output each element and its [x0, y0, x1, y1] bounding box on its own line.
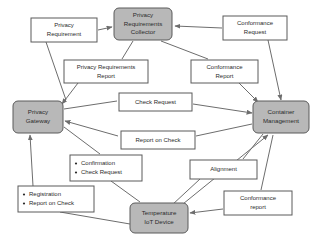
- bullet-icon: [23, 202, 25, 204]
- node-label-line: Temperature: [142, 209, 177, 216]
- label-text-line: Report: [215, 73, 233, 79]
- node-temperature-iot-device[interactable]: TemperatureIoT Device: [130, 203, 188, 233]
- edge-container-to-conformance-report-bottom: [261, 135, 273, 190]
- node-privacy-gateway[interactable]: PrivacyGateway: [13, 101, 63, 133]
- label-text-line: Privacy Requirements: [77, 64, 136, 70]
- node-privacy-requirements-collector[interactable]: PrivacyRequirementsCollector: [114, 8, 172, 40]
- edge-container-to-report-on-check: [196, 124, 252, 136]
- edge-collector-to-conformance-report: [161, 41, 208, 59]
- edge-conformance-request-to-container: [268, 40, 281, 100]
- label-text-line: Check Request: [81, 169, 122, 175]
- bullet-icon: [75, 162, 77, 164]
- label-text-line: Confirmation: [81, 160, 115, 166]
- label-text-line: Report: [97, 73, 115, 79]
- edge-conformance-report-to-container: [239, 83, 258, 102]
- label-text-line: Conformance: [237, 20, 274, 26]
- label-box-alignment: Alignment: [190, 160, 257, 179]
- edge-gateway-to-check-request: [64, 101, 117, 109]
- edge-privacy-requirement-to-collector: [98, 27, 112, 30]
- node-label-line: Management: [263, 117, 299, 124]
- node-label-line: Privacy: [133, 11, 154, 18]
- bullet-icon: [23, 193, 25, 195]
- node-label-line: Collector: [131, 28, 155, 35]
- edge-registration-to-gateway: [30, 135, 33, 186]
- label-box-privacy-requirement: PrivacyRequirement: [31, 18, 97, 42]
- label-text-line: Alignment: [210, 166, 237, 172]
- diagram-canvas: PrivacyRequirementConformanceRequestPriv…: [0, 0, 323, 246]
- edge-device-to-gateway-registration: [60, 212, 130, 224]
- edge-collector-to-requirements-report: [122, 41, 133, 59]
- node-label-line: Container: [268, 108, 295, 115]
- edge-gateway-to-confirmation: [64, 127, 100, 154]
- node-container-management[interactable]: ContainerManagement: [253, 101, 309, 133]
- edge-conformance-report-bottom-to-device: [190, 209, 223, 213]
- label-box-conformance-report-top: ConformanceReport: [191, 60, 258, 83]
- label-box-frame: [70, 155, 142, 181]
- edge-container-to-alignment: [243, 134, 263, 159]
- label-text-line: report: [250, 204, 266, 210]
- node-label-line: Requirements: [124, 20, 163, 27]
- node-label-line: IoT Device: [144, 218, 174, 225]
- bullet-icon: [75, 171, 77, 173]
- label-text-line: Request: [244, 29, 267, 35]
- label-text-line: Requirement: [47, 31, 82, 37]
- label-box-registration-report-on-check: RegistrationReport on Check: [18, 186, 94, 212]
- node-label-line: Gateway: [26, 117, 51, 124]
- label-text-line: Registration: [29, 191, 61, 197]
- label-box-confirmation-check-request: ConfirmationCheck Request: [70, 155, 142, 181]
- edge-confirmation-to-device: [111, 181, 140, 202]
- edge-requirements-report-to-gateway: [62, 83, 78, 104]
- label-text-line: Privacy: [54, 22, 74, 28]
- label-box-check-request: Check Request: [119, 93, 192, 111]
- edge-conformance-request-to-collector: [175, 26, 222, 28]
- label-text-line: Conformance: [240, 195, 277, 201]
- label-text-line: Report on Check: [135, 137, 181, 143]
- label-box-privacy-requirements-report: Privacy RequirementsReport: [64, 60, 148, 83]
- label-box-frame: [18, 186, 94, 212]
- label-text-line: Check Request: [135, 99, 176, 105]
- edge-privacy-requirement-to-gateway: [46, 42, 66, 100]
- label-text-line: Conformance: [206, 64, 243, 70]
- diagram-container: PrivacyRequirementConformanceRequestPriv…: [0, 0, 323, 246]
- label-box-report-on-check: Report on Check: [121, 131, 195, 149]
- label-text-line: Report on Check: [29, 200, 75, 206]
- node-label-line: Privacy: [28, 108, 49, 115]
- edge-check-request-to-container: [193, 104, 252, 113]
- label-box-conformance-report-bottom: Conformancereport: [224, 191, 292, 215]
- label-box-conformance-request: ConformanceRequest: [223, 16, 287, 40]
